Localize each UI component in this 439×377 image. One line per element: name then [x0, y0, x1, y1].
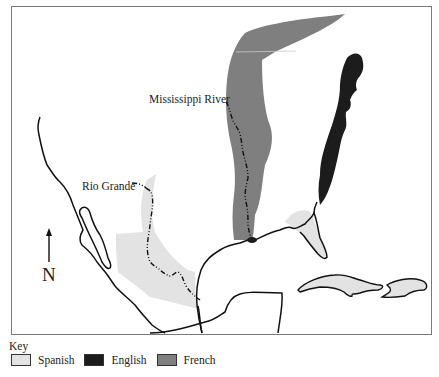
french-territory	[226, 14, 345, 240]
mississippi-delta	[247, 237, 257, 243]
legend-label-spanish: Spanish	[38, 354, 74, 366]
legend-label-english: English	[111, 354, 146, 366]
rio-grande-label: Rio Grande	[82, 180, 135, 192]
north-arrow-icon	[46, 228, 52, 262]
spanish-territory-hispaniola	[382, 279, 427, 298]
english-territory	[319, 54, 364, 206]
legend-item-spanish: Spanish	[11, 354, 74, 366]
atlantic-coastline	[314, 202, 317, 213]
key-title: Key	[9, 340, 28, 352]
spanish-territory-cuba	[298, 275, 383, 296]
legend: Spanish English French	[11, 354, 226, 366]
legend-label-french: French	[184, 354, 216, 366]
french-swatch	[157, 354, 177, 366]
spanish-swatch	[11, 354, 31, 366]
north-label: N	[42, 264, 56, 286]
english-swatch	[84, 354, 104, 366]
spanish-territory-florida	[285, 210, 327, 257]
mississippi-river-label: Mississippi River	[149, 93, 230, 105]
spanish-territory-mainland	[116, 174, 200, 310]
colonial-territories-map	[0, 0, 439, 377]
legend-item-french: French	[157, 354, 216, 366]
legend-item-english: English	[84, 354, 146, 366]
